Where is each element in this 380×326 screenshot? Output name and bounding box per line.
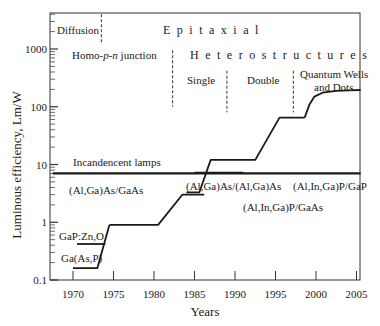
label-heterostructures: Heterostructures xyxy=(190,48,373,62)
label-gap-zno: GaP:Zn,O xyxy=(59,230,104,242)
label-epitaxial: Epitaxial xyxy=(163,23,265,37)
label-double: Double xyxy=(247,74,280,86)
series-line xyxy=(305,90,361,118)
x-axis-title: Years xyxy=(190,304,219,319)
y-tick-label: 1000 xyxy=(25,43,48,55)
x-tick-label: 2005 xyxy=(346,288,369,300)
label-quantum-wells: Quantum Wells xyxy=(300,68,368,80)
x-tick-label: 2000 xyxy=(305,288,328,300)
label-algaas-gaas: (Al,Ga)As/GaAs xyxy=(69,184,143,197)
x-tick-label: 1975 xyxy=(103,288,126,300)
y-axis-ticks: 0.11101001000 xyxy=(25,14,58,286)
label-algaas-algaas: (Al,Ga)As/(Al,Ga)As xyxy=(186,180,281,193)
label-alingap-gap: (Al,In,Ga)P/GaP xyxy=(293,180,367,193)
series-line xyxy=(109,195,204,225)
label-single: Single xyxy=(187,74,215,86)
x-tick-label: 1995 xyxy=(265,288,288,300)
x-tick-label: 1985 xyxy=(184,288,207,300)
x-tick-label: 1980 xyxy=(143,288,166,300)
label-alingap-gaas: (Al,In,Ga)P/GaAs xyxy=(243,201,323,214)
y-axis-title: Luminous efficiency, Lm/W xyxy=(9,91,24,239)
label-incandescent-lamps: Incandencent lamps xyxy=(73,156,161,168)
homo-prefix: Homo- xyxy=(72,49,104,61)
label-gaasp: Ga(As,P) xyxy=(61,252,103,265)
homo-suffix: junction xyxy=(118,49,157,61)
label-homo-pn-junction: Homo-p-n junction xyxy=(72,49,157,61)
label-and-dots: and Dots xyxy=(314,81,353,93)
y-tick-label: 10 xyxy=(36,159,48,171)
x-tick-label: 1990 xyxy=(224,288,247,300)
luminous-efficiency-chart: 0.11101001000 19701975198019851990199520… xyxy=(0,0,380,326)
label-diffusion: Diffusion xyxy=(57,24,99,36)
y-tick-label: 0.1 xyxy=(33,274,47,286)
y-tick-label: 1 xyxy=(42,216,48,228)
x-axis-ticks: 19701975198019851990199520002005 xyxy=(62,271,368,300)
y-tick-label: 100 xyxy=(31,101,48,113)
x-tick-label: 1970 xyxy=(62,288,85,300)
